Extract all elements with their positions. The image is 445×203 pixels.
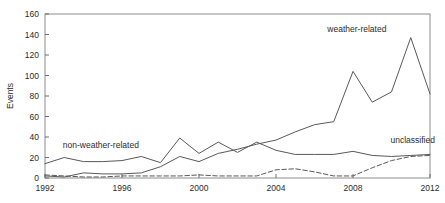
- y-tick-label: 40: [30, 132, 40, 142]
- data-series: [45, 38, 430, 177]
- x-tick-label: 1992: [36, 183, 55, 193]
- annotation-label: weather-related: [326, 24, 386, 34]
- y-axis-title: Events: [5, 83, 15, 109]
- y-tick-label: 120: [25, 50, 39, 60]
- y-tick-label: 140: [25, 30, 39, 40]
- annotation-label: unclassified: [390, 135, 435, 145]
- x-tick-label: 2008: [344, 183, 363, 193]
- x-tick-label: 2004: [267, 183, 286, 193]
- y-tick-label: 160: [25, 9, 39, 19]
- y-tick-label: 60: [30, 112, 40, 122]
- y-tick-label: 80: [30, 91, 40, 101]
- y-tick-label: 100: [25, 71, 39, 81]
- plot-border: [45, 14, 430, 178]
- annotation-label: non-weather-related: [63, 140, 139, 150]
- x-tick-label: 2012: [421, 183, 440, 193]
- y-tick-label: 20: [30, 153, 40, 163]
- plot-frame: [45, 14, 430, 178]
- x-tick-label: 2000: [190, 183, 209, 193]
- y-axis-label: Events: [5, 83, 15, 109]
- x-tick-label: 1996: [113, 183, 132, 193]
- series-line-weather-related: [45, 38, 430, 177]
- line-chart: 020406080100120140160 199219962000200420…: [0, 0, 445, 203]
- series-annotations: weather-relatednon-weather-relatedunclas…: [63, 24, 435, 150]
- chart-container: 020406080100120140160 199219962000200420…: [0, 0, 445, 203]
- y-tick-label: 0: [34, 173, 39, 183]
